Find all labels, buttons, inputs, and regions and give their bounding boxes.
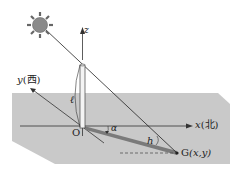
- point-g-label: G(x,y): [181, 148, 211, 158]
- point-g-coords: (x,y): [189, 147, 211, 158]
- pole-length-label: ℓ: [70, 95, 74, 105]
- point-g: [175, 151, 178, 154]
- pole: [80, 65, 85, 128]
- y-axis-label: y(西): [17, 75, 40, 85]
- h-label: h: [147, 136, 153, 146]
- z-axis-label: z: [84, 26, 89, 35]
- origin-label: O: [72, 128, 80, 138]
- y-axis-direction: (西): [23, 74, 41, 85]
- alpha-label: α: [111, 124, 117, 133]
- x-axis-label: x(北): [195, 120, 218, 130]
- point-g-name: G: [181, 147, 189, 158]
- y-axis-arrow-icon: [30, 88, 36, 93]
- sun-icon: [27, 12, 53, 38]
- x-axis-direction: (北): [201, 119, 219, 130]
